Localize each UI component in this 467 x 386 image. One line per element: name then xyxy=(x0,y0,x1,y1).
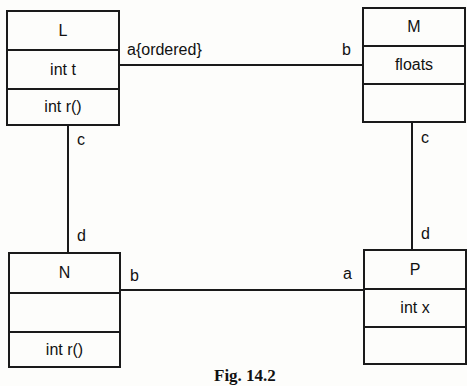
association-n-p xyxy=(120,289,364,291)
class-l-attributes: int t xyxy=(8,49,118,88)
class-n-operations: int r() xyxy=(10,331,119,366)
class-p-attributes: int x xyxy=(365,288,465,326)
class-p[interactable]: P int x xyxy=(363,249,467,365)
role-label-l-n-to: d xyxy=(77,228,86,244)
role-label-l-n-from: c xyxy=(77,132,85,148)
role-label-l-m-to: b xyxy=(342,42,351,58)
class-l[interactable]: L int t int r() xyxy=(6,10,120,126)
class-p-name: P xyxy=(365,251,465,288)
association-m-p xyxy=(411,122,413,250)
role-label-m-p-from: c xyxy=(421,130,429,146)
role-label-n-p-to: a xyxy=(343,266,352,282)
association-l-m xyxy=(119,64,363,66)
class-m-attributes: floats xyxy=(364,45,464,83)
class-n[interactable]: N int r() xyxy=(8,252,121,368)
role-label-l-m-from: a{ordered} xyxy=(127,42,202,58)
class-m-name: M xyxy=(364,9,464,45)
role-label-n-p-from: b xyxy=(130,268,139,284)
class-m[interactable]: M floats xyxy=(362,7,466,123)
role-label-m-p-to: d xyxy=(421,226,430,242)
association-l-n xyxy=(67,125,69,253)
class-l-name: L xyxy=(8,12,118,49)
class-p-operations xyxy=(365,326,465,363)
class-m-operations xyxy=(364,83,464,121)
figure-caption: Fig. 14.2 xyxy=(214,366,276,386)
class-l-operations: int r() xyxy=(8,88,118,124)
class-n-attributes xyxy=(10,292,119,331)
class-n-name: N xyxy=(10,254,119,292)
